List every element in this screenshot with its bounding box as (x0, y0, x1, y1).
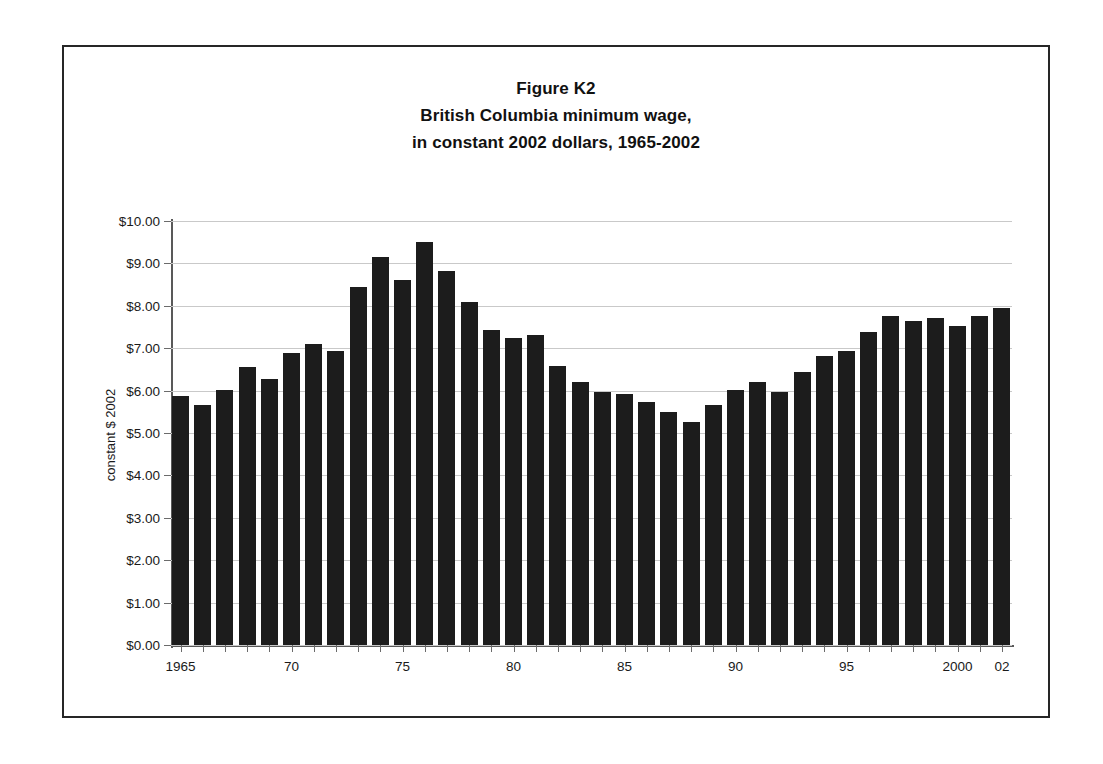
bar (838, 351, 855, 645)
x-axis-tick-mark (225, 645, 226, 652)
bar (594, 392, 611, 645)
gridline (171, 306, 1012, 307)
x-axis-tick-mark (536, 645, 537, 652)
title-line-2: British Columbia minimum wage, (64, 102, 1048, 129)
x-axis-tick-label: 75 (395, 659, 410, 674)
bar (993, 308, 1010, 645)
bar (483, 330, 500, 645)
x-axis-tick-mark (447, 645, 448, 652)
bar (882, 316, 899, 645)
bar (949, 326, 966, 645)
y-axis-tick-label: $9.00 (126, 256, 160, 271)
x-axis-tick-mark (292, 645, 293, 652)
bar (927, 318, 944, 645)
bar (638, 402, 655, 645)
x-axis-tick-mark (758, 645, 759, 652)
y-axis-tick-mark (164, 603, 171, 604)
y-axis-tick-mark (164, 221, 171, 222)
y-axis-tick-label: $1.00 (126, 595, 160, 610)
x-axis-tick-mark (358, 645, 359, 652)
y-axis-tick-mark (164, 475, 171, 476)
figure-title: Figure K2 British Columbia minimum wage,… (64, 75, 1048, 156)
x-axis-tick-mark (203, 645, 204, 652)
bar (461, 302, 478, 645)
x-axis-tick-mark (602, 645, 603, 652)
y-axis-label: constant $ 2002 (103, 389, 118, 482)
bar (549, 366, 566, 645)
y-axis-tick-mark (164, 518, 171, 519)
bar (572, 382, 589, 645)
bar (394, 280, 411, 645)
x-axis-tick-mark (625, 645, 626, 652)
y-axis-tick-label: $0.00 (126, 638, 160, 653)
y-axis-tick-label: $5.00 (126, 426, 160, 441)
x-axis-tick-mark (913, 645, 914, 652)
bar-chart-plot-area: $0.00$1.00$2.00$3.00$4.00$5.00$6.00$7.00… (171, 221, 1012, 645)
bar (771, 392, 788, 645)
x-axis-tick-mark (713, 645, 714, 652)
x-axis-tick-mark (269, 645, 270, 652)
y-axis-tick-label: $8.00 (126, 298, 160, 313)
bar (971, 316, 988, 645)
x-axis-tick-mark (403, 645, 404, 652)
x-axis-tick-mark (691, 645, 692, 652)
x-axis-tick-mark (780, 645, 781, 652)
bar (727, 390, 744, 645)
x-axis-tick-mark (935, 645, 936, 652)
x-axis-tick-label: 1965 (165, 659, 195, 674)
x-axis-tick-label: 2000 (942, 659, 972, 674)
x-axis-tick-mark (314, 645, 315, 652)
x-axis-tick-label: 80 (506, 659, 521, 674)
bar (794, 372, 811, 645)
figure-border: Figure K2 British Columbia minimum wage,… (62, 45, 1050, 718)
gridline (171, 221, 1012, 222)
bar (527, 335, 544, 645)
bar (305, 344, 322, 645)
x-axis-tick-mark (736, 645, 737, 652)
x-axis-tick-mark (647, 645, 648, 652)
x-axis-tick-label: 85 (617, 659, 632, 674)
x-axis-tick-mark (336, 645, 337, 652)
bar (283, 353, 300, 645)
x-axis-tick-label: 90 (728, 659, 743, 674)
gridline (171, 645, 1012, 646)
x-axis-tick-mark (891, 645, 892, 652)
bar (905, 321, 922, 645)
x-axis-tick-mark (580, 645, 581, 652)
x-axis-tick-mark (558, 645, 559, 652)
x-axis-tick-mark (514, 645, 515, 652)
x-axis-tick-mark (980, 645, 981, 652)
bar (438, 271, 455, 645)
x-axis-tick-mark (847, 645, 848, 652)
y-axis-tick-mark (164, 433, 171, 434)
x-axis-tick-mark (469, 645, 470, 652)
x-axis-tick-mark (247, 645, 248, 652)
gridline (171, 263, 1012, 264)
bar (660, 412, 677, 645)
y-axis-tick-mark (164, 263, 171, 264)
bar (327, 351, 344, 645)
x-axis-tick-mark (958, 645, 959, 652)
y-axis-tick-label: $3.00 (126, 510, 160, 525)
y-axis-tick-label: $10.00 (119, 214, 160, 229)
y-axis-tick-label: $2.00 (126, 553, 160, 568)
title-line-3: in constant 2002 dollars, 1965-2002 (64, 129, 1048, 156)
bar (505, 338, 522, 645)
x-axis-tick-mark (1002, 645, 1003, 652)
x-axis-tick-mark (425, 645, 426, 652)
bar (816, 356, 833, 645)
y-axis-tick-label: $7.00 (126, 341, 160, 356)
y-axis-tick-mark (164, 645, 171, 646)
bar (172, 396, 189, 645)
bar (372, 257, 389, 645)
bar (416, 242, 433, 645)
x-axis-tick-label: 70 (284, 659, 299, 674)
y-axis-tick-mark (164, 560, 171, 561)
y-axis-tick-mark (164, 348, 171, 349)
bar (216, 390, 233, 645)
bar (350, 287, 367, 645)
y-axis-tick-mark (164, 391, 171, 392)
y-axis-tick-label: $6.00 (126, 383, 160, 398)
bar (705, 405, 722, 645)
x-axis-tick-mark (802, 645, 803, 652)
